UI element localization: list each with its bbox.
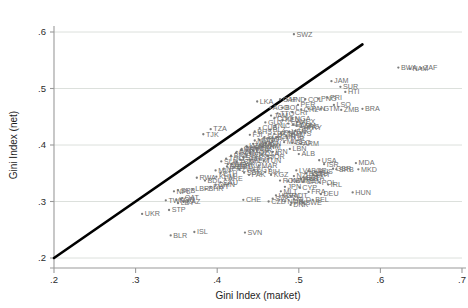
point-marker [276,112,278,114]
point-label: GTM [323,104,339,113]
point-label: IRQ [248,160,261,169]
point-label: TJK [206,130,219,139]
x-tick-label: .2 [50,274,58,285]
point-label: SWZ [297,30,314,39]
y-tick-label: .4 [38,139,46,150]
point-marker [330,80,332,82]
point-marker [420,67,422,69]
data-point: BLR [170,231,188,240]
point-marker [270,114,272,116]
point-label: LKA [260,97,274,106]
point-marker [215,175,217,177]
point-label: HUN [355,188,371,197]
data-point: LKA [256,97,274,106]
point-marker [289,204,291,206]
y-tick-label: .3 [38,196,46,207]
point-marker [293,33,295,35]
point-marker [298,153,300,155]
data-point: SRB [335,165,354,174]
data-point: MKD [357,165,377,174]
point-marker [177,189,179,191]
point-marker [289,148,291,150]
y-tick-label: .2 [38,252,46,263]
point-marker [223,168,225,170]
point-marker [361,108,363,110]
point-marker [205,188,207,190]
point-marker [323,163,325,165]
point-marker [249,134,251,136]
y-tick-label: .6 [38,26,46,37]
point-marker [202,133,204,135]
data-point: TJK [202,130,219,139]
point-marker [327,183,329,185]
point-marker [279,179,281,181]
point-label: ZAF [424,63,438,72]
point-marker [339,86,341,88]
data-point: DNK [289,200,308,209]
point-label: HTI [348,87,360,96]
point-marker [357,168,359,170]
identity-reference-line [54,44,362,258]
data-point: UKR [141,209,160,218]
point-label: ZMB [344,105,359,114]
data-point: ZMB [340,105,359,114]
point-label: MKD [361,165,377,174]
data-point: SVN [244,228,263,237]
point-marker [238,169,240,171]
point-marker [258,145,260,147]
point-marker [175,199,177,201]
point-label: UKR [145,209,160,218]
data-point: RWA [196,173,216,182]
point-marker [335,168,337,170]
point-marker [253,169,255,171]
point-marker [409,68,411,70]
point-marker [318,181,320,183]
data-point: SOM [258,141,278,150]
point-marker [181,197,183,199]
point-label: SVN [248,228,263,237]
data-point: ISL [193,227,208,236]
point-marker [192,188,194,190]
x-tick-label: .7 [458,274,466,285]
data-points-group: SWZBWANAMZAFJAMSURHTIPNGPRICOLCAFHNDLKAP… [141,30,438,240]
point-label: DNK [293,200,308,209]
point-marker [233,166,235,168]
point-marker [355,162,357,164]
point-marker [243,172,245,174]
point-marker [254,139,256,141]
point-marker [298,186,300,188]
point-marker [248,174,250,176]
point-marker [236,151,238,153]
y-axis-title: Gini Index (net) [8,111,19,179]
point-marker [214,169,216,171]
point-marker [292,124,294,126]
point-marker [326,96,328,98]
x-tick-label: .3 [132,274,140,285]
reference-line-group [54,44,362,258]
point-label: RWA [199,173,216,182]
point-marker [264,171,266,173]
data-point: HUN [352,188,371,197]
point-label: BLR [173,231,187,240]
data-point: TTO [276,109,294,118]
point-label: BRA [365,104,380,113]
point-label: AZE [239,147,253,156]
data-point: BRA [361,104,380,113]
point-marker [141,213,143,215]
data-point: BHR [205,184,224,193]
point-label: ISL [197,227,208,236]
point-marker [170,234,172,236]
point-marker [397,66,399,68]
y-tick-label: .5 [38,83,46,94]
data-point: SWZ [293,30,313,39]
chart-canvas: SWZBWANAMZAFJAMSURHTIPNGPRICOLCAFHNDLKAP… [0,0,468,308]
point-label: SRB [339,165,354,174]
point-label: BHR [208,184,223,193]
data-point: CHE [242,195,261,204]
point-marker [267,200,269,202]
x-tick-label: .5 [295,274,303,285]
point-marker [173,190,175,192]
x-tick-label: .6 [376,274,384,285]
point-marker [279,98,281,100]
point-label: CHE [246,195,261,204]
